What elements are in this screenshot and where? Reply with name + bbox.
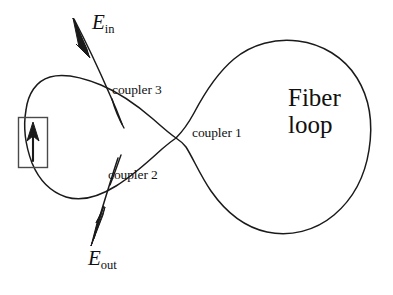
input-field-symbol: E xyxy=(92,10,105,34)
output-field-symbol: E xyxy=(88,246,101,270)
fiber-loop-label-line2: loop xyxy=(288,111,341,138)
fiber-loop-diagram: Ein Eout coupler 3 coupler 2 coupler 1 F… xyxy=(0,0,393,295)
coupler-3-label: coupler 3 xyxy=(112,83,162,97)
fiber-loop-label-line1: Fiber xyxy=(288,84,341,111)
input-field-subscript: in xyxy=(105,22,115,36)
output-arrow-head-barb xyxy=(91,207,105,246)
output-field-label: Eout xyxy=(88,248,117,272)
fiber-loop-label: Fiber loop xyxy=(288,84,341,138)
diagram-canvas xyxy=(0,0,393,295)
coupler-1-label: coupler 1 xyxy=(192,126,242,140)
coupler-2-label: coupler 2 xyxy=(108,168,158,182)
output-field-subscript: out xyxy=(101,258,117,272)
input-arrow-head-barb xyxy=(73,18,89,57)
input-field-label: Ein xyxy=(92,12,114,36)
